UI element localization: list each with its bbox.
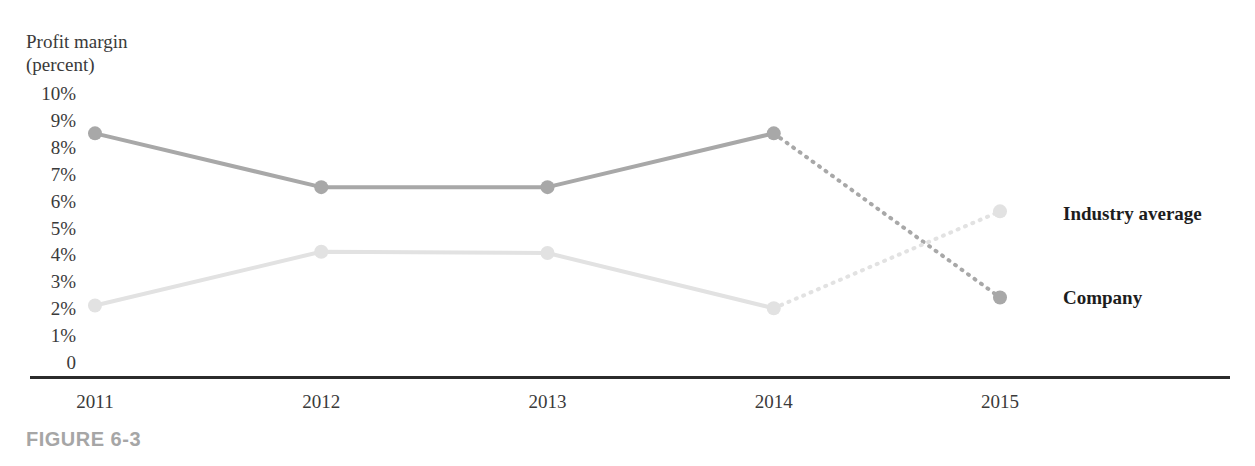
data-point-marker <box>314 180 328 194</box>
figure-caption: FIGURE 6-3 <box>26 428 141 451</box>
x-axis-tick-2013: 2013 <box>488 391 608 413</box>
y-axis-tick-9pct: 9% <box>20 110 76 129</box>
data-point-marker <box>314 245 328 259</box>
line-dotted-industry-average <box>774 133 1000 297</box>
x-axis-tick-2014: 2014 <box>714 391 834 413</box>
legend-item-company: Company <box>1063 287 1142 309</box>
data-point-marker <box>88 299 102 313</box>
x-axis-tick-2011: 2011 <box>35 391 155 413</box>
line-solid-company <box>95 252 774 308</box>
data-point-marker <box>88 126 102 140</box>
y-axis-tick-10pct: 10% <box>20 84 76 103</box>
data-point-marker <box>541 180 555 194</box>
x-axis-tick-2012: 2012 <box>261 391 381 413</box>
data-point-marker <box>767 126 781 140</box>
y-axis-title-line-2: (percent) <box>26 53 128 76</box>
y-axis-tick-5pct: 5% <box>20 218 76 237</box>
y-axis-tick-4pct: 4% <box>20 245 76 264</box>
legend-item-industry-average: Industry average <box>1063 203 1202 225</box>
y-axis-tick-0: 0 <box>20 353 76 372</box>
figure-container: Profit margin (percent) 10%9%8%7%6%5%4%3… <box>0 0 1255 466</box>
chart-svg <box>0 0 1255 466</box>
y-axis-title: Profit margin (percent) <box>26 30 128 76</box>
x-axis-tick-2015: 2015 <box>940 391 1060 413</box>
y-axis-title-line-1: Profit margin <box>26 30 128 53</box>
line-solid-industry-average <box>95 133 774 187</box>
y-axis-tick-7pct: 7% <box>20 164 76 183</box>
y-axis-tick-1pct: 1% <box>20 326 76 345</box>
plot-area <box>0 0 1255 466</box>
y-axis-tick-3pct: 3% <box>20 272 76 291</box>
y-axis-tick-6pct: 6% <box>20 191 76 210</box>
x-axis-line <box>30 376 1230 379</box>
y-axis-tick-labels: 10%9%8%7%6%5%4%3%2%1%0 <box>20 83 76 367</box>
y-axis-tick-2pct: 2% <box>20 299 76 318</box>
y-axis-tick-8pct: 8% <box>20 137 76 156</box>
line-dotted-company <box>774 211 1000 308</box>
data-point-marker <box>541 246 555 260</box>
data-point-marker <box>993 204 1007 218</box>
data-point-marker <box>767 301 781 315</box>
data-point-marker <box>993 290 1007 304</box>
